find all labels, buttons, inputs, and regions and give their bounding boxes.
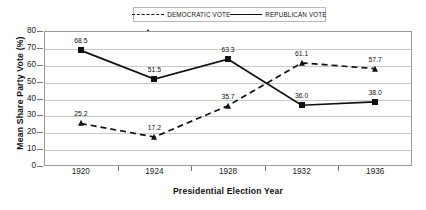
line-chart: DEMOCRATIC VOTE REPUBLICAN VOTE Mean Sha… (0, 0, 426, 210)
data-point-label: 51.5 (148, 66, 161, 73)
y-axis-tick-mark (37, 115, 43, 116)
y-axis-tick-label: 10 (8, 144, 36, 153)
legend-label-republican: REPUBLICAN VOTE (265, 11, 326, 18)
x-axis-tick-label: 1924 (145, 167, 163, 176)
y-axis-tick-label: 80 (8, 26, 36, 35)
data-point-label: 36.0 (295, 92, 308, 99)
y-axis-tick-mark (37, 65, 43, 66)
x-axis-tick-label: 1932 (292, 167, 310, 176)
gridline (45, 83, 411, 84)
x-axis-tick-mark (338, 166, 339, 171)
gridline (45, 133, 411, 134)
x-axis-tick-label: 1920 (72, 167, 90, 176)
y-axis-tick-mark (37, 31, 43, 32)
y-axis-tick-mark (37, 82, 43, 83)
legend-entry-republican: REPUBLICAN VOTE (230, 10, 326, 19)
y-axis-tick-mark (37, 166, 43, 167)
y-axis-tick-mark (37, 48, 43, 49)
legend-label-democratic: DEMOCRATIC VOTE (167, 11, 230, 18)
legend-entry-democratic: DEMOCRATIC VOTE (132, 10, 230, 19)
gridline (45, 66, 411, 67)
x-axis-tick-label: 1936 (366, 167, 384, 176)
x-axis-tick-mark (118, 166, 119, 171)
data-point-marker (78, 120, 84, 126)
y-axis-tick-label: 50 (8, 77, 36, 86)
y-axis-tick-label: 30 (8, 110, 36, 119)
chart-legend: DEMOCRATIC VOTE REPUBLICAN VOTE (133, 7, 326, 22)
data-point-label: 35.7 (221, 93, 234, 100)
x-axis-tick-mark (265, 166, 266, 171)
data-point-label: 57.7 (369, 56, 382, 63)
data-point-marker (299, 60, 305, 66)
data-point-label: 68.5 (74, 37, 87, 44)
data-point-marker (78, 47, 84, 53)
data-point-label: 38.0 (369, 89, 382, 96)
x-axis-tick-label: 1928 (219, 167, 237, 176)
gridline (45, 150, 411, 151)
data-point-label: 61.1 (295, 50, 308, 57)
y-axis-tick-mark (37, 149, 43, 150)
x-axis-tick-mark (191, 166, 192, 171)
data-point-label: 17.2 (148, 124, 161, 131)
y-axis-tick-label: 0 (8, 161, 36, 170)
democratic-legend-marker-icon (132, 10, 164, 19)
data-point-marker (372, 65, 378, 71)
data-point-marker (225, 56, 231, 62)
data-point-marker (225, 102, 231, 108)
data-point-marker (151, 76, 157, 82)
gridline (45, 116, 411, 117)
data-point-marker (372, 99, 378, 105)
y-axis-tick-mark (37, 99, 43, 100)
data-point-label: 25.2 (74, 110, 87, 117)
y-axis-tick-label: 40 (8, 94, 36, 103)
y-axis-tick-label: 20 (8, 127, 36, 136)
data-point-marker (151, 134, 157, 140)
data-point-label: 63.3 (221, 46, 234, 53)
y-axis-tick-mark (37, 132, 43, 133)
y-axis-tick-label: 60 (8, 60, 36, 69)
data-point-marker (299, 102, 305, 108)
y-axis-tick-label: 70 (8, 43, 36, 52)
x-axis-title: Presidential Election Year (44, 186, 412, 196)
republican-legend-marker-icon (230, 10, 262, 19)
